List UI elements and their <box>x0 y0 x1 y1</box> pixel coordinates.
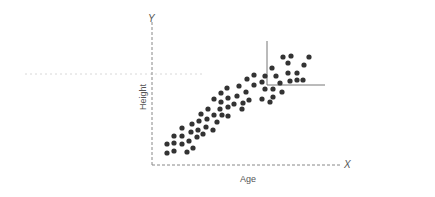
data-point <box>211 96 216 101</box>
data-point <box>195 127 200 132</box>
data-point <box>164 150 169 155</box>
data-point <box>225 104 230 109</box>
data-point <box>196 118 201 123</box>
data-point <box>198 111 203 116</box>
y-axis-label: Height <box>138 83 148 110</box>
data-point <box>270 86 275 91</box>
data-point <box>219 112 224 117</box>
data-point <box>239 106 244 111</box>
data-point <box>179 133 184 138</box>
data-point <box>210 127 215 132</box>
data-point <box>211 112 216 117</box>
data-point <box>277 80 282 85</box>
data-point <box>301 62 306 67</box>
data-point <box>184 149 189 154</box>
data-point <box>280 54 285 59</box>
scatter-chart: Y X Age Height <box>0 0 435 197</box>
data-point <box>234 93 239 98</box>
data-point <box>231 101 236 106</box>
data-point <box>246 97 251 102</box>
data-point <box>179 125 184 130</box>
data-point <box>251 72 256 77</box>
data-point <box>279 89 284 94</box>
data-point <box>288 53 293 58</box>
data-point <box>186 138 191 143</box>
data-point <box>171 140 176 145</box>
data-point <box>287 78 292 83</box>
data-point <box>225 113 230 118</box>
data-point <box>179 141 184 146</box>
data-point <box>236 83 241 88</box>
data-point <box>294 77 299 82</box>
data-point <box>164 141 169 146</box>
data-point <box>214 119 219 124</box>
y-axis-letter: Y <box>148 13 156 24</box>
x-axis-label: Age <box>240 174 256 184</box>
data-point <box>262 86 267 91</box>
data-point <box>262 73 267 78</box>
data-point <box>194 134 199 139</box>
data-point <box>189 121 194 126</box>
data-point <box>224 85 229 90</box>
data-point <box>203 124 208 129</box>
data-point <box>217 106 222 111</box>
data-point <box>285 60 290 65</box>
data-point <box>218 90 223 95</box>
data-point <box>306 54 311 59</box>
data-point <box>294 70 299 75</box>
data-point <box>259 96 264 101</box>
data-point <box>243 89 248 94</box>
data-point <box>300 77 305 82</box>
data-point <box>171 148 176 153</box>
data-point <box>171 133 176 138</box>
data-point <box>269 65 274 70</box>
data-point <box>240 100 245 105</box>
data-point <box>218 99 223 104</box>
data-point <box>267 99 272 104</box>
data-point <box>205 106 210 111</box>
data-point <box>200 131 205 136</box>
data-point <box>244 76 249 81</box>
data-point <box>190 145 195 150</box>
data-point <box>225 95 230 100</box>
data-point <box>270 94 275 99</box>
data-point <box>273 73 278 78</box>
x-axis-letter: X <box>343 159 351 170</box>
data-point <box>259 79 264 84</box>
data-point <box>285 70 290 75</box>
data-point <box>251 82 256 87</box>
data-point <box>204 116 209 121</box>
data-point <box>188 129 193 134</box>
scatter-points <box>164 53 311 155</box>
